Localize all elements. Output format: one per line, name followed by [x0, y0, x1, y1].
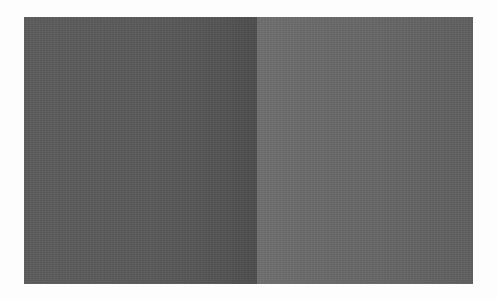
- left-panel-texture: [24, 17, 257, 284]
- left-gray-panel: [24, 17, 257, 284]
- right-panel-texture: [257, 17, 473, 284]
- image-canvas: [0, 0, 497, 299]
- right-gray-panel: [257, 17, 473, 284]
